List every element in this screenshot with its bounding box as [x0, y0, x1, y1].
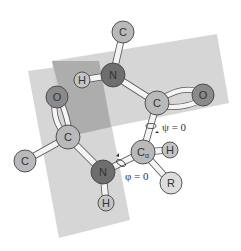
atom-label: O [199, 89, 208, 101]
atom-label: R [167, 177, 175, 189]
atom-o-right: O [192, 84, 214, 106]
atom-label: C [21, 155, 29, 167]
atom-n-top: N [101, 63, 125, 87]
atom-h-left: H [74, 72, 90, 88]
atom-label: H [166, 144, 174, 156]
atom-h-right: H [162, 142, 178, 158]
atom-label: C [119, 26, 127, 38]
atom-r-group: R [160, 172, 182, 194]
atom-label: C [153, 97, 161, 109]
atom-c-far-left: C [14, 150, 36, 172]
psi-label: ψ = 0 [162, 121, 187, 133]
atom-c-top: C [112, 21, 134, 43]
atom-o-left: O [46, 86, 68, 108]
atom-label: N [109, 69, 117, 81]
atom-label: H [102, 197, 110, 209]
atom-h-bottom: H [98, 195, 114, 211]
atom-c-right: C [145, 91, 169, 115]
peptide-diagram: CNHCOOCCNHCαHR ψ = 0 φ = 0 [0, 0, 241, 251]
atom-n-bottom: N [91, 160, 115, 184]
atom-label: O [53, 91, 62, 103]
atom-label: H [78, 74, 86, 86]
atom-label: C [64, 131, 72, 143]
atom-c-alpha: Cα [131, 140, 155, 164]
atom-c-left: C [56, 125, 80, 149]
phi-label: φ = 0 [125, 170, 149, 182]
atom-label: N [99, 166, 107, 178]
